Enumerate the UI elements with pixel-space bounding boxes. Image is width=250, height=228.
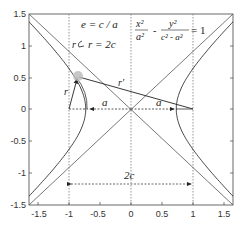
eccentricity-label: e = c / a bbox=[81, 18, 118, 30]
x-tick-label: -1 bbox=[65, 209, 73, 219]
y-ticks-right bbox=[230, 46, 233, 173]
x-tick-label: 0 bbox=[128, 209, 133, 219]
radius-equation-label: r = 2c bbox=[88, 38, 116, 50]
a-squared: a² bbox=[136, 31, 145, 42]
line-r-prime bbox=[79, 77, 193, 109]
hyperbola-left-branch bbox=[3, 0, 86, 223]
y-tick-label: 1 bbox=[21, 41, 26, 51]
y-tick-label: -1.5 bbox=[10, 200, 26, 210]
hyperbola-right-branch bbox=[176, 0, 250, 223]
x-tick-label: 0.5 bbox=[156, 209, 169, 219]
x-tick-label: -1.5 bbox=[31, 209, 47, 219]
y-tick-label: 0.5 bbox=[13, 73, 26, 83]
y-tick-label: 1.5 bbox=[13, 9, 26, 19]
equals-one: = 1 bbox=[191, 24, 205, 36]
c2-minus-a2: c² - a² bbox=[161, 32, 183, 42]
x-tick-label: 1 bbox=[190, 209, 195, 219]
y-tick-label: -0.5 bbox=[10, 136, 26, 146]
curved-arrow-icon bbox=[78, 41, 84, 47]
point-p-highlight bbox=[73, 71, 83, 81]
r-label: r bbox=[64, 86, 68, 97]
r-symbol-label: r bbox=[72, 39, 76, 50]
a-label-right: a bbox=[156, 96, 162, 108]
hyperbola-equation: x² a² - y² c² - a² = 1 bbox=[135, 18, 205, 42]
two-c-label: 2c bbox=[124, 169, 135, 181]
a-label-left: a bbox=[102, 96, 108, 108]
y-squared: y² bbox=[168, 18, 177, 29]
y-tick-label: 0 bbox=[21, 104, 26, 114]
x-squared: x² bbox=[135, 18, 144, 29]
line-r bbox=[69, 79, 77, 109]
minus-sign: - bbox=[153, 25, 156, 36]
r-prime-label: r' bbox=[118, 77, 125, 88]
hyperbola-diagram: e = c / a r r = 2c x² a² - y² c² - a² = … bbox=[0, 0, 250, 228]
x-tick-label: 1.5 bbox=[218, 209, 231, 219]
x-axis-ticks: -1.5 -1 -0.5 0 0.5 1 1.5 bbox=[31, 202, 230, 219]
y-tick-label: -1 bbox=[18, 168, 26, 178]
x-tick-label: -0.5 bbox=[90, 209, 106, 219]
